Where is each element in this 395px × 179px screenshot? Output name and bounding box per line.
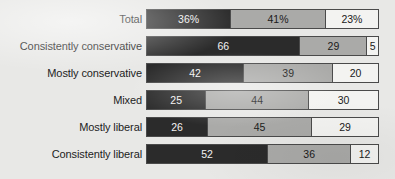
chart-row: Mixed254430 bbox=[0, 90, 395, 110]
bar-segment: 36% bbox=[147, 10, 230, 28]
row-label: Consistently liberal bbox=[52, 144, 142, 164]
stacked-bar: 66295 bbox=[146, 36, 379, 56]
bar-segment: 41% bbox=[230, 10, 325, 28]
bar-segment: 30 bbox=[308, 91, 378, 109]
bar-segment: 42 bbox=[147, 64, 243, 82]
segment-value-label: 41% bbox=[268, 13, 289, 25]
stacked-bar: 423920 bbox=[146, 63, 379, 83]
chart-row: Consistently conservative66295 bbox=[0, 36, 395, 56]
segment-value-label: 44 bbox=[251, 94, 263, 106]
bar-segment: 20 bbox=[332, 64, 378, 82]
row-label: Total bbox=[119, 9, 142, 29]
chart-row: Mostly conservative423920 bbox=[0, 63, 395, 83]
stacked-bar: 36%41%23% bbox=[146, 9, 379, 29]
segment-value-label: 29 bbox=[339, 121, 351, 133]
bar-segment: 39 bbox=[243, 64, 332, 82]
bar-segment: 44 bbox=[205, 91, 308, 109]
segment-value-label: 66 bbox=[217, 40, 229, 52]
segment-value-label: 39 bbox=[282, 67, 294, 79]
segment-value-label: 29 bbox=[328, 40, 340, 52]
row-label: Mixed bbox=[113, 90, 142, 110]
bar-segment: 66 bbox=[147, 37, 299, 55]
segment-value-label: 42 bbox=[189, 67, 201, 79]
segment-value-label: 52 bbox=[201, 148, 213, 160]
stacked-bar: 254430 bbox=[146, 90, 379, 110]
segment-value-label: 20 bbox=[350, 67, 362, 79]
bar-segment: 25 bbox=[147, 91, 205, 109]
segment-value-label: 12 bbox=[359, 148, 371, 160]
segment-value-label: 30 bbox=[338, 94, 350, 106]
row-label: Mostly liberal bbox=[79, 117, 142, 137]
bar-segment: 5 bbox=[366, 37, 378, 55]
chart-rows: Total36%41%23%Consistently conservative6… bbox=[0, 0, 395, 179]
segment-value-label: 5 bbox=[370, 40, 376, 52]
segment-value-label: 45 bbox=[254, 121, 266, 133]
bar-segment: 29 bbox=[299, 37, 366, 55]
bar-segment: 29 bbox=[311, 118, 378, 136]
bar-segment: 23% bbox=[325, 10, 378, 28]
stacked-bar: 523612 bbox=[146, 144, 379, 164]
segment-value-label: 23% bbox=[341, 13, 362, 25]
stacked-bar: 264529 bbox=[146, 117, 379, 137]
bar-segment: 12 bbox=[350, 145, 378, 163]
segment-value-label: 36 bbox=[303, 148, 315, 160]
stacked-bar-chart: Total36%41%23%Consistently conservative6… bbox=[0, 0, 395, 179]
bar-segment: 26 bbox=[147, 118, 207, 136]
segment-value-label: 25 bbox=[170, 94, 182, 106]
segment-value-label: 36% bbox=[178, 13, 199, 25]
bar-segment: 45 bbox=[207, 118, 311, 136]
chart-row: Total36%41%23% bbox=[0, 9, 395, 29]
segment-value-label: 26 bbox=[171, 121, 183, 133]
row-label: Mostly conservative bbox=[47, 63, 142, 83]
bar-segment: 36 bbox=[267, 145, 350, 163]
bar-segment: 52 bbox=[147, 145, 267, 163]
chart-row: Consistently liberal523612 bbox=[0, 144, 395, 164]
chart-row: Mostly liberal264529 bbox=[0, 117, 395, 137]
row-label: Consistently conservative bbox=[20, 36, 142, 56]
